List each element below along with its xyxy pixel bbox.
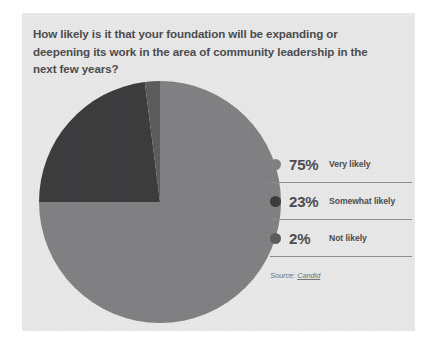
- source-attribution: Source: Candid: [270, 271, 320, 280]
- legend-row-somewhat-likely[interactable]: 23% Somewhat likely: [270, 183, 412, 220]
- legend-row-not-likely[interactable]: 2% Not likely: [270, 220, 412, 257]
- legend-label-somewhat-likely: Somewhat likely: [329, 196, 395, 206]
- pie-chart: [38, 80, 282, 324]
- legend-percent-very-likely: 75%: [289, 156, 329, 173]
- legend-label-not-likely: Not likely: [329, 233, 367, 243]
- legend-percent-not-likely: 2%: [289, 230, 329, 247]
- legend-swatch-somewhat-likely: [270, 196, 281, 207]
- source-link[interactable]: Candid: [297, 271, 320, 280]
- chart-title: How likely is it that your foundation wi…: [33, 25, 385, 78]
- source-prefix: Source:: [270, 271, 297, 280]
- legend-label-very-likely: Very likely: [329, 159, 371, 169]
- legend-row-very-likely[interactable]: 75% Very likely: [270, 146, 412, 183]
- legend: 75% Very likely 23% Somewhat likely 2% N…: [270, 146, 412, 257]
- legend-swatch-very-likely: [270, 159, 281, 170]
- infographic-card: How likely is it that your foundation wi…: [22, 13, 415, 331]
- pie-chart-svg: [38, 80, 282, 324]
- pie-slice-group: [39, 81, 281, 323]
- legend-swatch-not-likely: [270, 233, 281, 244]
- pie-slice-somewhat-likely: [39, 82, 160, 202]
- legend-percent-somewhat-likely: 23%: [289, 193, 329, 210]
